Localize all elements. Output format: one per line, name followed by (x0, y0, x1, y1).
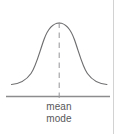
right-border-rule (113, 0, 114, 134)
normal-distribution-figure: mean mode (0, 0, 120, 134)
distribution-plot (0, 0, 120, 134)
